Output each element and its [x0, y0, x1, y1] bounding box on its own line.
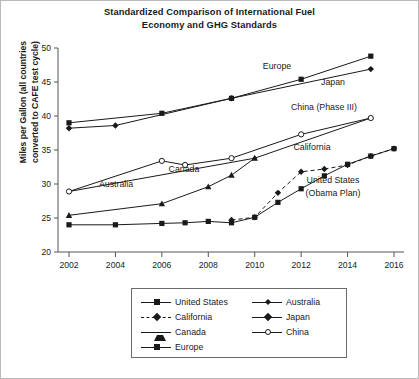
- x-tick-label: 2002: [59, 260, 78, 270]
- legend-point-marker: [154, 329, 166, 341]
- data-point: [228, 172, 234, 178]
- x-tick-label: 2008: [199, 260, 218, 270]
- data-point: [205, 183, 211, 189]
- data-point: [182, 220, 187, 225]
- legend-item-label: Europe: [175, 342, 203, 353]
- data-point: [368, 54, 373, 59]
- legend-item-china[interactable]: China: [252, 325, 346, 340]
- legend: United StatesCaliforniaCanadaEurope Aust…: [131, 288, 347, 358]
- legend-marker-square-icon: [141, 297, 171, 308]
- series-europe: [66, 54, 373, 126]
- legend-item-united-states[interactable]: United States: [141, 295, 252, 310]
- data-point: [66, 125, 72, 131]
- x-tick-label: 2004: [106, 260, 125, 270]
- series-label: United States: [307, 175, 360, 185]
- data-point: [113, 222, 118, 227]
- legend-item-japan[interactable]: Japan: [252, 310, 346, 325]
- legend-item-australia[interactable]: Australia: [252, 295, 346, 310]
- series-label: California: [293, 142, 330, 152]
- data-point: [229, 156, 234, 161]
- series-label: (Obama Plan): [306, 188, 361, 198]
- legend-marker-diamond-icon: [141, 312, 171, 323]
- chart-figure: Standardized Comparison of International…: [0, 0, 419, 379]
- series-line: [69, 56, 371, 123]
- data-point: [66, 189, 71, 194]
- legend-item-label: Australia: [286, 297, 320, 308]
- legend-item-canada[interactable]: Canada: [141, 325, 252, 340]
- legend-marker-triangle-icon: [141, 327, 171, 338]
- legend-marker-circle-open-icon: [252, 327, 282, 338]
- y-tick-label: 30: [41, 179, 51, 189]
- x-tick-label: 2012: [292, 260, 311, 270]
- x-tick-label: 2014: [338, 260, 357, 270]
- y-tick-label: 45: [41, 77, 51, 87]
- legend-marker-diamond-icon: [252, 312, 282, 323]
- legend-item-label: Japan: [286, 312, 310, 323]
- x-tick-label: 2006: [152, 260, 171, 270]
- series-label: Japan: [321, 77, 345, 87]
- legend-column-1: United StatesCaliforniaCanadaEurope: [141, 295, 252, 355]
- legend-item-label: United States: [175, 297, 228, 308]
- series-japan: [66, 66, 374, 132]
- y-tick-label: 20: [41, 247, 51, 257]
- data-point: [159, 158, 164, 163]
- legend-point-marker: [154, 299, 160, 305]
- data-point: [368, 66, 374, 72]
- series-label: Europe: [263, 61, 291, 71]
- data-point: [321, 166, 327, 172]
- data-point: [206, 219, 211, 224]
- series-label: China (Phase III): [291, 102, 357, 112]
- y-tick-label: 35: [41, 145, 51, 155]
- y-tick-label: 25: [41, 213, 51, 223]
- series-label: Canada: [169, 164, 200, 174]
- series-canada: [66, 155, 258, 218]
- y-tick-label: 40: [41, 111, 51, 121]
- legend-point-marker: [264, 313, 272, 321]
- axes: 2025303540455020022004200620082010201220…: [41, 43, 404, 270]
- legend-point-marker: [265, 299, 271, 305]
- series-label: Australia: [99, 179, 133, 189]
- data-point: [66, 222, 71, 227]
- data-point: [112, 122, 118, 128]
- data-point: [368, 115, 373, 120]
- x-tick-label: 2010: [245, 260, 264, 270]
- data-point: [299, 132, 304, 137]
- data-point: [159, 221, 164, 226]
- legend-item-california[interactable]: California: [141, 310, 252, 325]
- data-point: [275, 200, 280, 205]
- legend-item-europe[interactable]: Europe: [141, 340, 252, 355]
- legend-marker-square-icon: [141, 342, 171, 353]
- data-series-group: [66, 54, 397, 228]
- data-point: [299, 186, 304, 191]
- y-tick-label: 50: [41, 43, 51, 53]
- legend-point-marker: [265, 329, 271, 335]
- legend-item-label: Canada: [175, 327, 206, 338]
- legend-item-label: California: [175, 312, 212, 323]
- legend-point-marker: [154, 344, 160, 350]
- x-tick-label: 2016: [384, 260, 403, 270]
- legend-item-label: China: [286, 327, 309, 338]
- data-point: [66, 120, 71, 125]
- legend-column-2: AustraliaJapanChina: [252, 295, 346, 355]
- legend-marker-diamond-sm-icon: [252, 297, 282, 308]
- data-point: [299, 77, 304, 82]
- data-point: [275, 190, 281, 196]
- legend-point-marker: [153, 313, 161, 321]
